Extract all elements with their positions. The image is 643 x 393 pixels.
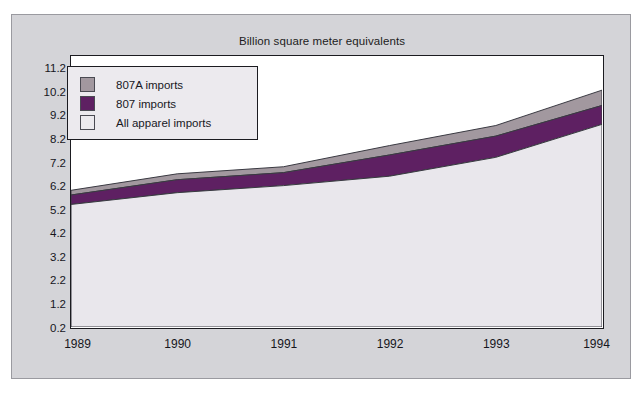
chart-card: Billion square meter equivalents 0.21.22… — [11, 14, 631, 379]
legend-label: All apparel imports — [116, 117, 211, 129]
legend-item: All apparel imports — [68, 113, 257, 132]
y-axis-tick: 6.2 — [20, 180, 66, 192]
y-axis-tick: 0.2 — [20, 322, 66, 334]
y-axis-tick: 2.2 — [20, 274, 66, 286]
y-axis: 0.21.22.23.24.25.26.27.28.29.210.211.2 — [20, 55, 66, 329]
x-axis-tick: 1992 — [377, 337, 404, 351]
legend-swatch-icon — [80, 115, 95, 130]
y-axis-tick: 5.2 — [20, 204, 66, 216]
y-axis-tick: 11.2 — [20, 62, 66, 74]
y-axis-tick: 1.2 — [20, 298, 66, 310]
chart-title: Billion square meter equivalents — [12, 35, 632, 47]
y-axis-tick: 4.2 — [20, 227, 66, 239]
legend-swatch-icon — [80, 96, 95, 111]
y-axis-tick: 7.2 — [20, 157, 66, 169]
legend-swatch-icon — [80, 77, 95, 92]
x-axis-tick: 1993 — [483, 337, 510, 351]
legend-item: 807A imports — [68, 75, 257, 94]
chart-legend: 807A imports807 importsAll apparel impor… — [67, 66, 258, 140]
area-band — [71, 124, 602, 327]
y-axis-tick: 9.2 — [20, 109, 66, 121]
x-axis-tick: 1991 — [271, 337, 298, 351]
legend-label: 807A imports — [116, 79, 183, 91]
y-axis-tick: 8.2 — [20, 133, 66, 145]
x-axis-tick: 1994 — [583, 337, 610, 351]
y-axis-tick: 10.2 — [20, 86, 66, 98]
legend-label: 807 imports — [116, 98, 176, 110]
x-axis: 198919901991199219931994 — [70, 337, 604, 357]
y-axis-tick: 3.2 — [20, 251, 66, 263]
legend-item: 807 imports — [68, 94, 257, 113]
x-axis-tick: 1989 — [64, 337, 91, 351]
x-axis-tick: 1990 — [164, 337, 191, 351]
